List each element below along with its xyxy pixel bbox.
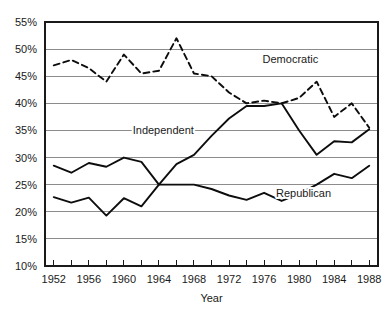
x-tick-label-1984: 1984 [322,273,346,285]
y-tick-label-50: 50% [15,43,37,55]
line-chart: 10%15%20%25%30%35%40%45%50%55% 195219561… [0,0,391,312]
y-tick-label-10: 10% [15,260,37,272]
chart-container: 10%15%20%25%30%35%40%45%50%55% 195219561… [0,0,391,312]
x-tick-label-1972: 1972 [217,273,241,285]
y-tick-label-35: 35% [15,124,37,136]
x-tick-label-1980: 1980 [287,273,311,285]
y-tick-label-15: 15% [15,233,37,245]
y-tick-label-20: 20% [15,206,37,218]
series-label-democratic: Democratic [263,53,319,65]
series-label-independent: Independent [133,124,194,136]
y-tick-label-45: 45% [15,70,37,82]
x-tick-label-1960: 1960 [112,273,136,285]
chart-background [0,0,391,312]
y-tick-label-40: 40% [15,97,37,109]
x-tick-label-1976: 1976 [252,273,276,285]
y-tick-label-25: 25% [15,179,37,191]
series-label-republican: Republican [276,187,331,199]
y-tick-label-55: 55% [15,16,37,28]
x-axis-title: Year [200,292,223,304]
x-tick-label-1952: 1952 [42,273,66,285]
x-tick-label-1956: 1956 [77,273,101,285]
x-tick-label-1968: 1968 [182,273,206,285]
x-tick-label-1988: 1988 [357,273,381,285]
x-tick-label-1964: 1964 [147,273,171,285]
y-tick-label-30: 30% [15,152,37,164]
